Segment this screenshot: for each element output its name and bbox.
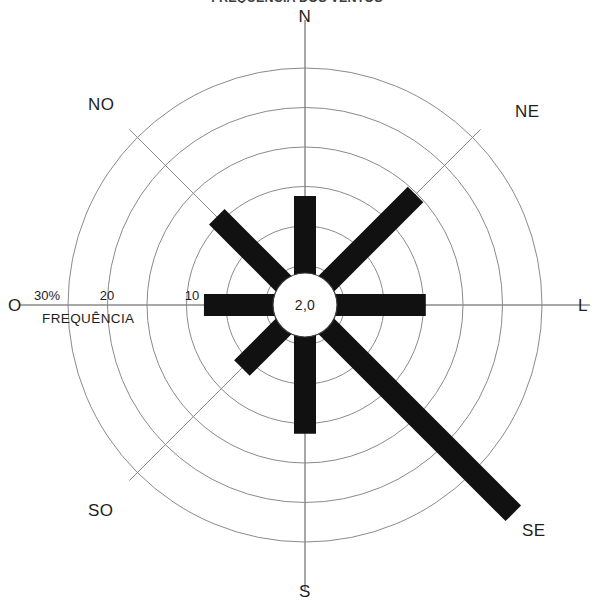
petal-l xyxy=(331,294,426,316)
wind-rose-plot: 2,0 N NE L SE S SO O NO 30% 20 10 FREQUÊ… xyxy=(0,0,594,609)
direction-label-nw: NO xyxy=(88,95,115,114)
direction-label-s: S xyxy=(299,582,311,601)
petal-layer xyxy=(204,187,521,521)
direction-label-n: N xyxy=(299,7,312,26)
wind-rose-chart: FREQUÊNCIA DOS VENTOS 2,0 N NE L SE S SO… xyxy=(0,0,594,609)
chart-title: FREQUÊNCIA DOS VENTOS xyxy=(0,0,594,3)
petal-n xyxy=(294,196,316,279)
radial-tick-label-30: 30% xyxy=(34,288,60,303)
radial-tick-label-20: 20 xyxy=(100,288,114,303)
calm-value-label: 2,0 xyxy=(295,297,315,313)
direction-label-e: L xyxy=(578,296,588,315)
petal-ne xyxy=(316,187,424,295)
petal-o xyxy=(204,294,279,316)
petal-no xyxy=(209,209,294,294)
petal-se xyxy=(316,316,521,521)
direction-label-ne: NE xyxy=(515,102,540,121)
petal-s xyxy=(294,331,316,434)
direction-label-se: SE xyxy=(522,521,546,540)
radial-tick-label-10: 10 xyxy=(185,288,199,303)
direction-label-w: O xyxy=(8,296,22,315)
direction-label-sw: SO xyxy=(88,501,114,520)
frequency-axis-label: FREQUÊNCIA xyxy=(42,311,135,326)
